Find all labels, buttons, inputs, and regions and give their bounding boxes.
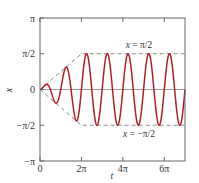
annotation-lower-label: x = −π/2 bbox=[122, 129, 155, 139]
y-tick-label: −π bbox=[24, 156, 35, 167]
annotation-lower-text: = −π/2 bbox=[127, 129, 155, 139]
chart: 02π4π6πππ/20−π/2−π t x x = π/2 x = −π/2 bbox=[0, 0, 199, 183]
x-tick-label: 2π bbox=[76, 163, 86, 174]
annotation-upper-label: x = π/2 bbox=[125, 40, 153, 50]
x-tick-label: 4π bbox=[118, 163, 128, 174]
y-tick-label: π/2 bbox=[22, 48, 35, 59]
x-axis-label: t bbox=[111, 170, 114, 181]
y-tick-label: −π/2 bbox=[17, 120, 35, 131]
x-tick-label: 0 bbox=[38, 163, 43, 174]
ticks: 02π4π6πππ/20−π/2−π bbox=[17, 13, 170, 175]
annotation-upper-text: = π/2 bbox=[130, 40, 153, 50]
y-tick-label: π bbox=[30, 13, 35, 24]
x-tick-label: 6π bbox=[159, 163, 169, 174]
y-tick-label: 0 bbox=[30, 84, 35, 95]
y-axis-label: x bbox=[3, 87, 14, 93]
